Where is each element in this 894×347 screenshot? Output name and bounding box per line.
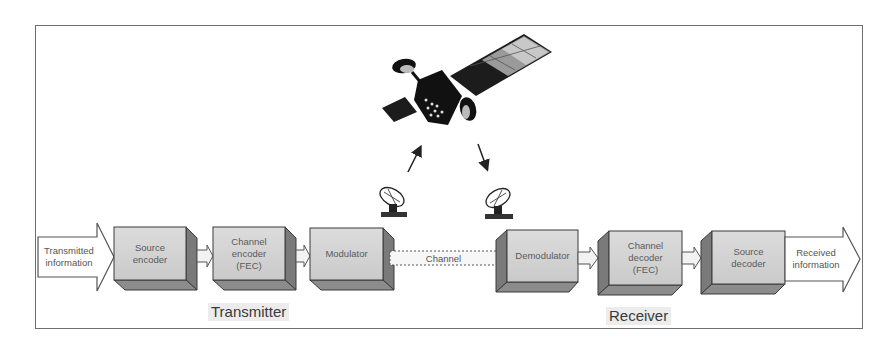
receiver-section-label: Receiver (606, 307, 671, 325)
source-encoder-label: Source encoder (114, 227, 186, 280)
connector-arrow (578, 247, 598, 269)
arrow-down-icon (478, 144, 486, 166)
modulator-label: Modulator (310, 228, 383, 280)
connector-arrow (682, 247, 701, 269)
diagram-canvas: Transmitted information Source encoder C… (0, 0, 894, 347)
source-decoder-label: Source decoder (712, 231, 785, 284)
satellite-dish-icon (483, 185, 514, 219)
input-arrow-label: Transmitted information (38, 237, 100, 277)
channel-encoder-label: Channel encoder (FEC) (213, 227, 285, 280)
channel-decoder-label: Channel decoder (FEC) (609, 231, 682, 285)
satellite-icon (382, 34, 552, 125)
transmitter-section-label: Transmitter (208, 303, 289, 321)
connector-arrow (197, 245, 213, 267)
connector-arrow (296, 245, 310, 267)
satellite-dish-icon (377, 184, 408, 217)
demodulator-label: Demodulator (507, 230, 578, 282)
channel-label: Channel (390, 251, 497, 265)
output-arrow-label: Received information (785, 237, 847, 281)
arrow-up-icon (408, 150, 419, 172)
diagram-graphics (0, 0, 894, 347)
